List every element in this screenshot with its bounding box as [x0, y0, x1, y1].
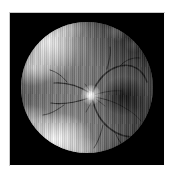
- image-title: Retinal Fundus Photograph: [0, 0, 1, 1]
- fundus-viewer: Retinal Fundus Photograph: [0, 0, 173, 176]
- fundus-rim-shading: [21, 22, 153, 153]
- fundus-canvas: [10, 13, 164, 165]
- panel-caption: [0, 0, 1, 1]
- fundus-image-panel[interactable]: [10, 13, 164, 165]
- fundus-disc: [21, 22, 153, 153]
